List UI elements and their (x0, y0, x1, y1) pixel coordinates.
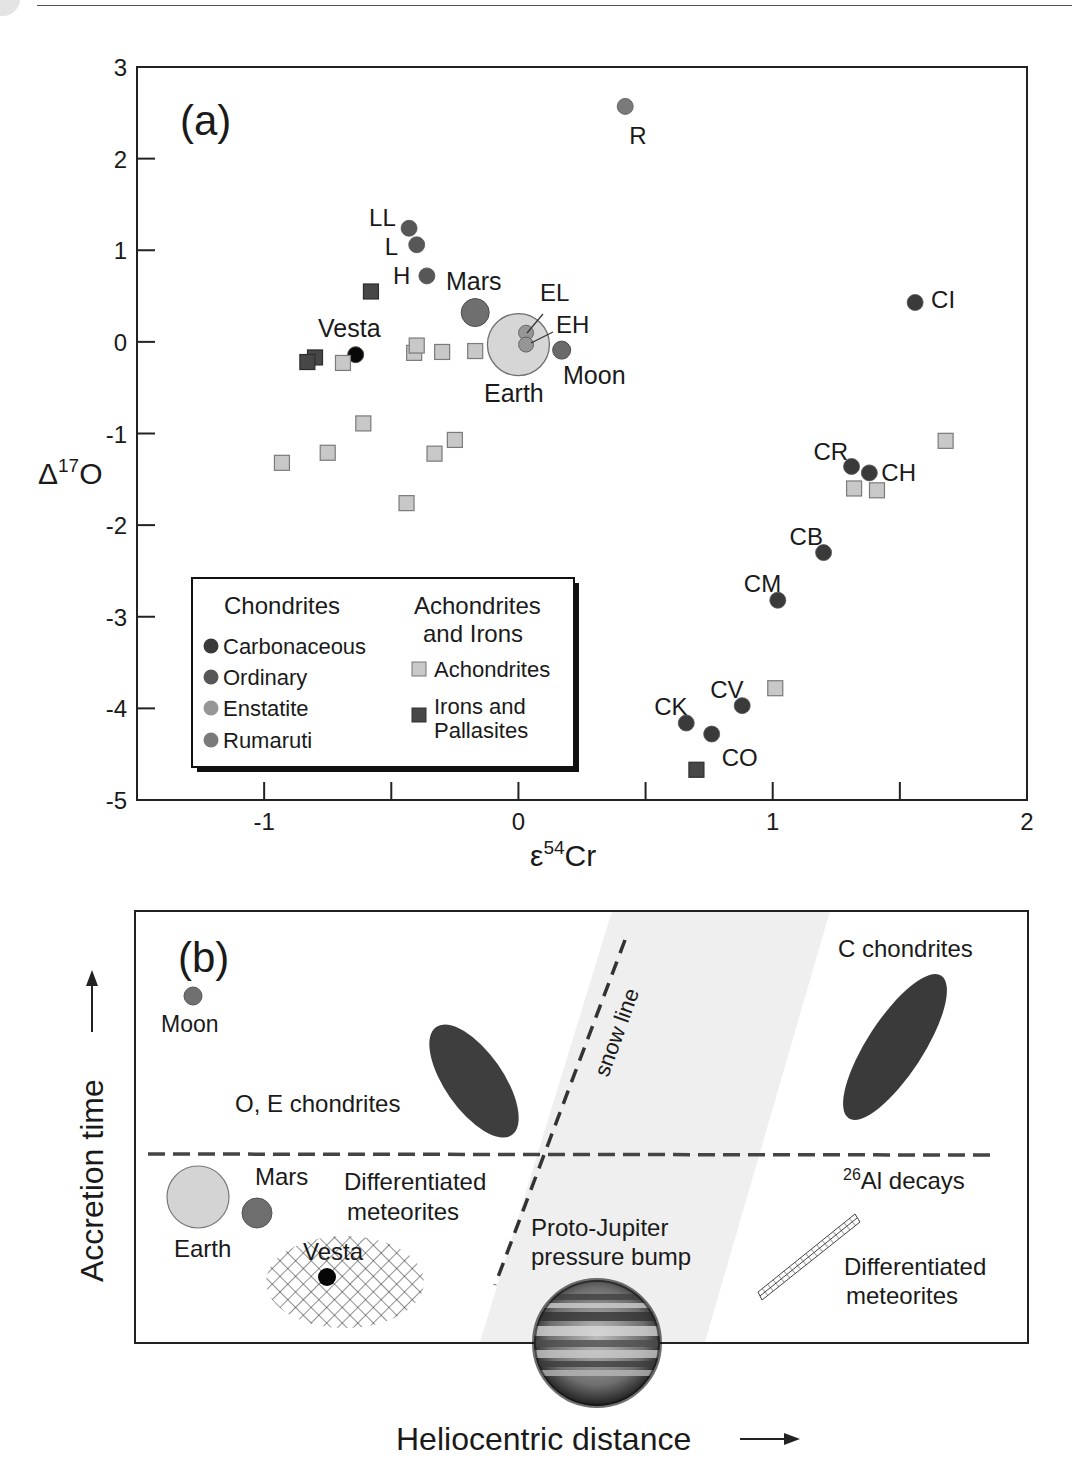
iron-marker (689, 762, 704, 777)
legend-label-carbonaceous: Carbonaceous (223, 634, 366, 659)
achondrite-marker (409, 338, 424, 353)
label-co: CO (722, 744, 758, 771)
x-tick-label: -1 (253, 808, 274, 835)
panel-b-diagram: (b) Accretion time Heliocentric distance… (74, 911, 1028, 1457)
achondrite-marker (468, 344, 483, 359)
achondrite-marker (447, 432, 462, 447)
legend-label-rumaruti: Rumaruti (223, 728, 312, 753)
label-earth: Earth (484, 379, 544, 407)
x-axis-label: ε54Cr (530, 837, 596, 872)
chondrite-marker-ll (401, 220, 417, 236)
panel-label-b: (b) (178, 934, 229, 981)
legend: Chondrites Carbonaceous Ordinary Enstati… (192, 578, 579, 772)
legend-marker-achondrites (412, 662, 426, 676)
achondrite-marker (274, 455, 289, 470)
c-chondrites-region (825, 960, 965, 1133)
y-axis-label: Δ17O (38, 455, 103, 490)
panel-a-scatter: (a) 3210-1-2-3-4-5 -1012 Δ17O ε54Cr Vest… (38, 54, 1034, 872)
label-diff-meteorites-inner-2: meteorites (347, 1198, 459, 1225)
label-cm: CM (744, 570, 781, 597)
chondrite-marker-r (617, 98, 633, 114)
legend-title-chondrites: Chondrites (224, 592, 340, 619)
label-mars: Mars (446, 267, 502, 295)
label-ci: CI (931, 286, 955, 313)
label-cb: CB (790, 523, 823, 550)
x-tick-label: 1 (766, 808, 779, 835)
label-vesta: Vesta (318, 314, 381, 342)
achondrite-marker (356, 416, 371, 431)
label-ck: CK (654, 693, 687, 720)
label-ll: LL (369, 204, 396, 231)
legend-title-achondrites: Achondrites (414, 592, 541, 619)
y-tick-label: 2 (114, 146, 127, 173)
y-tick-label: -1 (106, 421, 127, 448)
achondrite-marker (847, 481, 862, 496)
y-axis-accretion-time: Accretion time (74, 970, 110, 1282)
oe-chondrites-region (412, 1010, 535, 1151)
label-diff-meteorites-outer-2: meteorites (846, 1282, 958, 1309)
iron-marker (363, 284, 378, 299)
x-axis-label-b: Heliocentric distance (396, 1421, 691, 1457)
iron-marker (300, 355, 315, 370)
label-el: EL (540, 279, 569, 306)
chondrite-marker-ch (861, 465, 877, 481)
legend-label-enstatite: Enstatite (223, 696, 309, 721)
earth-marker (167, 1166, 229, 1228)
label-l: L (385, 233, 398, 260)
chondrite-marker-ci (907, 294, 923, 310)
figure: (a) 3210-1-2-3-4-5 -1012 Δ17O ε54Cr Vest… (0, 0, 1072, 1466)
legend-label-achondrites: Achondrites (434, 657, 550, 682)
y-tick-label: 0 (114, 329, 127, 356)
mars-marker (242, 1198, 272, 1228)
label-cv: CV (710, 676, 743, 703)
label-oe-chondrites: O, E chondrites (235, 1090, 400, 1117)
label-eh: EH (556, 311, 589, 338)
achondrite-marker (768, 681, 783, 696)
marker-mars (461, 299, 489, 327)
chondrite-marker-co (704, 726, 720, 742)
legend-marker-carbonaceous (204, 639, 219, 654)
marker-moon (553, 341, 571, 359)
moon-marker (184, 987, 202, 1005)
chondrite-marker-h (419, 268, 435, 284)
x-axis-heliocentric-distance: Heliocentric distance (396, 1421, 800, 1457)
y-tick-label: -3 (106, 604, 127, 631)
label-diff-meteorites-inner-1: Differentiated (344, 1168, 486, 1195)
label-r: R (629, 122, 646, 149)
x-tick-label: 0 (512, 808, 525, 835)
label-h: H (393, 262, 410, 289)
achondrite-marker (427, 446, 442, 461)
label-moon-b: Moon (161, 1011, 219, 1037)
label-vesta-b: Vesta (303, 1238, 364, 1265)
y-tick-label: -5 (106, 787, 127, 814)
label-earth-b: Earth (174, 1235, 231, 1262)
arrow-up-icon (86, 970, 98, 986)
x-axis: -1012 (253, 782, 1033, 835)
achondrite-marker (435, 344, 450, 359)
legend-label-irons-line2: Pallasites (434, 718, 528, 743)
legend-marker-rumaruti (204, 733, 219, 748)
label-al26-decays: 26Al decays (843, 1166, 965, 1194)
y-tick-label: 1 (114, 237, 127, 264)
chondrite-marker-eh (519, 337, 534, 352)
achondrite-marker (320, 445, 335, 460)
label-moon: Moon (563, 361, 626, 389)
label-c-chondrites: C chondrites (838, 935, 973, 962)
label-proto-jupiter-1: Proto-Jupiter (531, 1214, 668, 1241)
legend-marker-ordinary (204, 670, 219, 685)
legend-label-irons-line1: Irons and (434, 694, 526, 719)
panel-label-a: (a) (180, 97, 231, 144)
label-diff-meteorites-outer-1: Differentiated (844, 1253, 986, 1280)
legend-marker-enstatite (204, 701, 219, 716)
vesta-marker (318, 1268, 336, 1286)
label-mars-b: Mars (255, 1163, 308, 1190)
label-proto-jupiter-2: pressure bump (531, 1243, 691, 1270)
chondrite-marker-l (409, 237, 425, 253)
achondrite-marker (399, 496, 414, 511)
achondrite-marker (335, 355, 350, 370)
arrow-right-icon (784, 1433, 800, 1445)
label-ch: CH (881, 459, 916, 486)
achondrite-marker (938, 433, 953, 448)
label-cr: CR (814, 438, 849, 465)
legend-title-and-irons: and Irons (423, 620, 523, 647)
